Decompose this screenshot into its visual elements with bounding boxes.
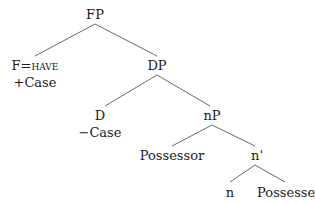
node-fp: FP	[86, 8, 104, 21]
node-np: nP	[203, 109, 220, 122]
edge-nbar-possessee	[255, 165, 285, 182]
edge-dp-np	[157, 75, 210, 106]
edge-np-possessor	[172, 125, 212, 146]
node-f-feature-plus-case: +Case	[14, 76, 57, 89]
node-possessor: Possessor	[140, 149, 204, 162]
node-dp: DP	[147, 59, 166, 72]
edge-fp-dp	[95, 24, 157, 56]
node-f-have: F=have	[12, 59, 59, 72]
node-f-have-smallcaps: have	[31, 58, 58, 73]
node-n: n	[226, 186, 234, 199]
edge-nbar-n	[230, 165, 255, 182]
edge-fp-f	[35, 24, 95, 56]
syntax-tree: FP F=have +Case DP D −Case nP Possessor …	[0, 0, 315, 203]
node-n-bar: n'	[251, 149, 263, 162]
edge-dp-d	[105, 75, 157, 106]
node-f-prefix: F=	[12, 58, 32, 73]
node-d: D	[95, 109, 105, 122]
edge-np-nbar	[212, 125, 255, 146]
tree-edges	[0, 0, 315, 203]
node-possessee: Possessee	[257, 186, 315, 199]
node-d-feature-minus-case: −Case	[79, 126, 122, 139]
